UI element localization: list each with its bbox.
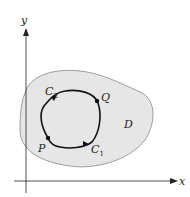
x-axis-label: x bbox=[179, 175, 186, 188]
point-q-label: Q bbox=[101, 91, 110, 104]
point-p-label: P bbox=[37, 142, 46, 155]
point-p bbox=[46, 136, 50, 140]
x-axis-arrow-icon bbox=[170, 178, 178, 184]
region-d-label: D bbox=[123, 118, 133, 131]
point-q bbox=[95, 99, 99, 103]
y-axis-label: y bbox=[20, 14, 28, 27]
diagram-canvas: y x D P Q C2 C1 bbox=[0, 0, 190, 197]
y-axis-arrow-icon bbox=[23, 28, 29, 36]
